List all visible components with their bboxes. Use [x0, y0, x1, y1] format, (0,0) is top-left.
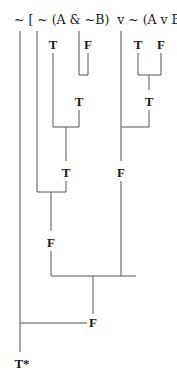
- node-b-right: F: [157, 38, 165, 51]
- node-a-or-b: T: [145, 95, 154, 108]
- node-a-and-not-b: T: [62, 166, 71, 179]
- node-not-b: T: [75, 95, 84, 108]
- node-not-a-or-b: F: [117, 166, 125, 179]
- node-b-left: F: [84, 38, 92, 51]
- truth-tree-diagram: ~ [ ~ (A & ~B) v ~ (A v B)]: [0, 0, 177, 384]
- node-a-right: T: [134, 38, 143, 51]
- node-not-a-and-not-b: F: [47, 236, 55, 249]
- node-result: T*: [14, 357, 29, 370]
- node-a-left: T: [49, 38, 58, 51]
- node-disjunction: F: [89, 316, 97, 329]
